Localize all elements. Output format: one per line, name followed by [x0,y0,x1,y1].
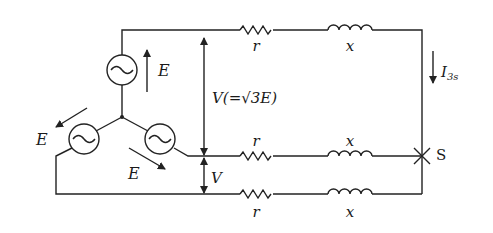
resistor-b [240,152,271,160]
resistor-b-label: r [252,132,260,150]
ac-icon [111,67,133,74]
line-c-wire [240,189,422,198]
resistor-c [240,190,271,198]
ac-icon [149,136,171,143]
inductor-c [328,189,372,194]
reactance-a-label: x [346,37,355,55]
fault-point-label: S [436,146,446,164]
inductor-b [328,151,372,156]
resistor-a-label: r [252,37,260,55]
circuit-diagram: r x E E E r x r x [0,0,493,233]
emf-top-label: E [157,61,170,80]
reactance-b-label: x [346,132,355,150]
inductor-a [328,25,372,30]
current-label: I3s [440,63,458,82]
ac-icon [73,136,95,143]
emf-left-label: E [35,130,48,149]
reactance-c-label: x [346,203,355,221]
line-b-wire [240,151,422,160]
resistor-c-label: r [252,203,260,221]
line-voltage-label: V(=√3E) [212,89,277,107]
emf-right-label: E [127,164,140,183]
voltage-v-label: V [211,169,224,187]
source-right [145,124,240,156]
source-top [107,55,137,117]
line-a-wire [122,25,422,194]
resistor-a [240,26,271,34]
